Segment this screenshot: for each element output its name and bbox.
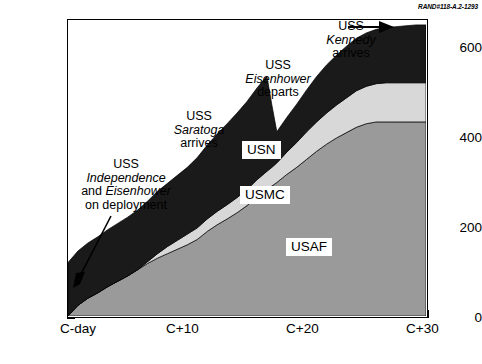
y-tick-label-200: 200 [446, 221, 482, 235]
saratoga-arrives-line-1: Saratoga [157, 124, 241, 138]
series-tag-usn: USN [242, 141, 281, 159]
eisenhower-departs-line-2: departs [228, 86, 328, 100]
independence-eisenhower-line-3: on deployment [61, 199, 191, 213]
saratoga-arrives-line-2: arrives [157, 137, 241, 151]
kennedy-arrives-line-0: USS [317, 20, 385, 34]
x-tick-label-c10: C+10 [166, 322, 199, 336]
x-tick-label-cday: C-day [60, 322, 96, 336]
kennedy-arrives-line-1: Kennedy [317, 34, 385, 48]
rand-document-id: RAND#118-A.2-1293 [418, 3, 478, 10]
x-tick-label-c30: C+30 [406, 322, 439, 336]
eisenhower-departs-line-1: Eisenhower [228, 73, 328, 87]
eisenhower-departs-line-0: USS [228, 59, 328, 73]
kennedy-arrives-line-2: arrives [317, 47, 385, 61]
saratoga-arrives-line-0: USS [157, 110, 241, 124]
y-tick-label-400: 400 [446, 131, 482, 145]
annotation-eisenhower-departs: USSEisenhowerdeparts [228, 59, 328, 100]
x-tick-label-c20: C+20 [286, 322, 319, 336]
independence-eisenhower-line-0: USS [61, 158, 191, 172]
annotation-saratoga-arrives: USSSaratogaarrives [157, 110, 241, 151]
annotation-kennedy-arrives: USSKennedyarrives [317, 20, 385, 61]
y-tick-label-0: 0 [446, 311, 482, 325]
independence-eisenhower-line-1: Independence [61, 172, 191, 186]
series-tag-usaf: USAF [286, 238, 332, 256]
series-tag-usmc: USMC [240, 186, 290, 204]
y-tick-label-600: 600 [446, 41, 482, 55]
figure-container: RAND#118-A.2-1293 Number of aircraft 0 2… [0, 0, 482, 364]
independence-eisenhower-line-2: and Eisenhower [61, 185, 191, 199]
annotation-independence-eisenhower: USSIndependenceand Eisenhoweron deployme… [61, 158, 191, 212]
